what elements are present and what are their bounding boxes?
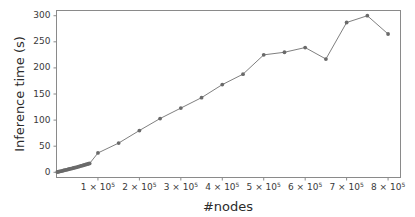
y-axis-title: Inference time (s) bbox=[12, 36, 27, 152]
y-tick-label: 0 bbox=[45, 167, 51, 177]
y-axis-ticks: 050100150200250300 bbox=[33, 10, 56, 177]
data-point-marker bbox=[96, 151, 100, 155]
data-point-marker bbox=[200, 96, 204, 100]
plot-area-border bbox=[57, 11, 401, 178]
data-point-marker bbox=[117, 141, 121, 145]
x-tick-label: 4 × 105 bbox=[205, 181, 239, 192]
x-tick-label: 1 × 105 bbox=[81, 181, 115, 192]
data-point-marker bbox=[365, 14, 369, 18]
data-point-marker bbox=[241, 72, 245, 76]
plot-frame bbox=[57, 11, 401, 178]
data-point-marker bbox=[220, 83, 224, 87]
data-point-marker bbox=[158, 117, 162, 121]
y-tick-label: 250 bbox=[33, 36, 50, 46]
inference-time-line-chart: 050100150200250300 1 × 1052 × 1053 × 105… bbox=[0, 0, 415, 217]
data-point-marker bbox=[137, 129, 141, 133]
y-tick-label: 200 bbox=[33, 62, 50, 72]
y-tick-label: 50 bbox=[39, 141, 51, 151]
y-tick-label: 300 bbox=[33, 10, 50, 20]
x-axis-ticks: 1 × 1052 × 1053 × 1054 × 1055 × 1056 × 1… bbox=[81, 178, 406, 192]
data-point-marker bbox=[303, 46, 307, 50]
chart-page: 050100150200250300 1 × 1052 × 1053 × 105… bbox=[0, 0, 415, 217]
x-tick-label: 6 × 105 bbox=[288, 181, 322, 192]
x-tick-label: 5 × 105 bbox=[247, 181, 281, 192]
x-axis-title: #nodes bbox=[203, 199, 253, 214]
data-point-marker bbox=[324, 57, 328, 61]
data-point-marker bbox=[179, 106, 183, 110]
data-point-marker bbox=[386, 32, 390, 36]
x-tick-label: 8 × 105 bbox=[371, 181, 405, 192]
data-point-marker bbox=[345, 21, 349, 25]
data-point-marker bbox=[88, 162, 92, 166]
y-tick-label: 100 bbox=[33, 115, 50, 125]
x-tick-label: 3 × 105 bbox=[164, 181, 198, 192]
data-point-marker bbox=[283, 50, 287, 54]
y-tick-label: 150 bbox=[33, 89, 50, 99]
x-tick-label: 7 × 105 bbox=[329, 181, 363, 192]
data-point-marker bbox=[262, 53, 266, 57]
x-tick-label: 2 × 105 bbox=[122, 181, 156, 192]
